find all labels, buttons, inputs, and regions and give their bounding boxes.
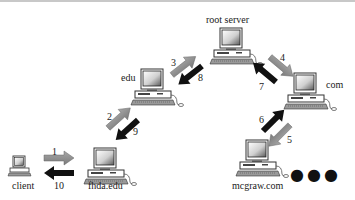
step-5-label: 5 [287, 134, 292, 145]
step-9-label: 9 [133, 126, 138, 137]
root-server-label: root server [206, 14, 249, 25]
client-label: client [12, 180, 34, 191]
step-1-label: 1 [52, 146, 57, 157]
fhda-label: fhda.edu [88, 180, 123, 191]
root-server-computer [210, 28, 263, 66]
step-8-label: 8 [198, 72, 203, 83]
mcgraw-computer [236, 140, 289, 178]
mcgraw-label: mcgraw.com [232, 180, 283, 191]
arrow-1-icon [44, 151, 74, 165]
step-4-label: 4 [280, 52, 285, 63]
step-3-label: 3 [171, 57, 176, 68]
client-computer [8, 156, 31, 176]
step-2-label: 2 [107, 111, 112, 122]
edu-label: edu [121, 72, 135, 83]
com-label: com [326, 79, 343, 90]
more-servers-ellipsis: ●●● [290, 165, 341, 184]
arrow-10-icon [44, 166, 74, 180]
step-7-label: 7 [259, 81, 264, 92]
step-10-label: 10 [54, 180, 64, 191]
step-6-label: 6 [259, 114, 264, 125]
